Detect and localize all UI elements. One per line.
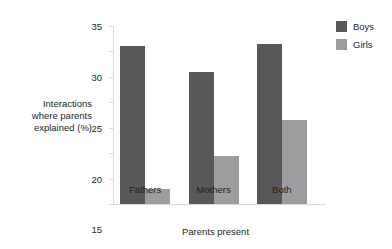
y-axis-tick-mark: 30 [109, 51, 113, 52]
bar-both-boys [257, 44, 282, 204]
y-axis-tick-label: 20 [91, 173, 102, 184]
legend-swatch-boys-icon [336, 21, 347, 32]
y-axis-tick-label: 15 [91, 224, 102, 235]
legend-swatch-girls-icon [336, 39, 347, 50]
y-axis-tick-label: 35 [91, 21, 102, 32]
y-axis-label-line-3: explained (%) [2, 122, 92, 134]
legend: Boys Girls [336, 21, 374, 57]
legend-item-boys: Boys [336, 21, 374, 32]
y-axis-tick-mark: 15 [109, 128, 113, 129]
y-axis-tick-mark: 0 [109, 204, 113, 205]
legend-label-boys: Boys [353, 21, 374, 32]
legend-item-girls: Girls [336, 39, 374, 50]
y-axis-tick-mark: 20 [109, 102, 113, 103]
y-axis-tick-label: 30 [91, 71, 102, 82]
y-axis-label-line-2: where parents [2, 110, 92, 122]
y-axis-label-line-1: Interactions [2, 98, 92, 110]
plot-area: 05101520253035 [113, 26, 318, 204]
y-axis-tick-label: 25 [91, 122, 102, 133]
bar-mothers-girls [214, 156, 239, 204]
y-axis-tick-mark: 35 [109, 26, 113, 27]
y-axis-label: Interactions where parents explained (%) [2, 98, 92, 133]
bar-chart: Interactions where parents explained (%)… [0, 0, 392, 249]
bar-fathers-boys [120, 46, 145, 204]
y-axis-tick-mark: 10 [109, 153, 113, 154]
y-axis-line [113, 26, 114, 204]
x-axis-label: Parents present [113, 226, 318, 237]
y-axis-tick-mark: 25 [109, 77, 113, 78]
x-axis-tick-label-both: Both [272, 184, 292, 195]
x-axis-tick-label-mothers: Mothers [196, 184, 230, 195]
x-axis-tick-label-fathers: Fathers [129, 184, 161, 195]
y-axis-tick-mark: 5 [109, 179, 113, 180]
legend-label-girls: Girls [353, 39, 373, 50]
